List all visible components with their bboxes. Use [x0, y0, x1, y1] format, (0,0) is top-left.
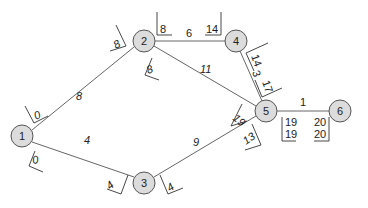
- time-label: 14: [206, 23, 218, 35]
- time-label: 20: [314, 128, 326, 140]
- node-3: 3: [133, 172, 155, 194]
- node-label: 1: [19, 130, 25, 142]
- node-6: 6: [329, 100, 351, 122]
- time-label: 19: [285, 128, 297, 140]
- edge-weight-2-5: 11: [200, 63, 211, 75]
- time-label: 19: [231, 111, 248, 128]
- edge-weight-4-5: 3: [250, 69, 263, 79]
- edge-weight-3-5: 9: [193, 136, 199, 148]
- time-label: 4: [104, 178, 116, 191]
- time-label: 19: [285, 116, 297, 128]
- time-label: 8: [145, 62, 156, 76]
- time-label: 8: [111, 37, 123, 51]
- edge-1-3: [32, 142, 134, 177]
- node-1: 1: [11, 125, 33, 147]
- edge-weight-1-2: 8: [76, 90, 83, 102]
- edge-2-5: [154, 46, 256, 106]
- node-2: 2: [133, 30, 155, 52]
- time-label: 8: [160, 23, 166, 35]
- edge-weight-5-6: 1: [300, 96, 306, 108]
- node-label: 3: [141, 177, 147, 189]
- node-4: 4: [225, 30, 247, 52]
- node-label: 2: [141, 35, 147, 47]
- node-5: 5: [255, 100, 277, 122]
- node-label: 4: [233, 35, 239, 47]
- node-label: 6: [337, 105, 343, 117]
- network-diagram: 8 4 9 11 6 3 1: [0, 0, 368, 208]
- edge-weight-2-4: 6: [186, 27, 192, 39]
- edge-1-2: [32, 47, 134, 130]
- edge-weight-1-3: 4: [84, 134, 90, 146]
- time-label: 0: [31, 153, 40, 166]
- time-label: 20: [314, 116, 326, 128]
- node-label: 5: [263, 105, 269, 117]
